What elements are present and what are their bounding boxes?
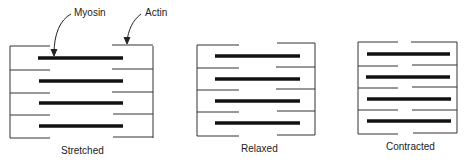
actin-label: Actin (145, 7, 167, 18)
relaxed-label: Relaxed (241, 143, 278, 154)
sarcomere-diagram (0, 0, 465, 163)
actin-pointer-arrow (124, 14, 141, 44)
myosin-stretched (38, 58, 123, 126)
actin-left-group (10, 46, 50, 138)
contracted-label: Contracted (386, 141, 435, 152)
myosin-label: Myosin (74, 7, 106, 18)
stretched-label: Stretched (61, 145, 104, 156)
myosin-pointer-arrow (51, 14, 71, 56)
